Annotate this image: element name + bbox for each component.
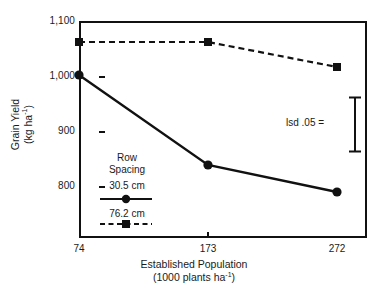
legend: Row Spacing 30.5 cm 76.2 cm	[85, 152, 169, 231]
lsd-annotation-label: lsd .05 =	[286, 117, 324, 128]
legend-title-line2: Spacing	[109, 164, 145, 175]
legend-item-76-2cm: 76.2 cm	[85, 208, 169, 231]
x-axis-title-line1: Established Population	[141, 258, 248, 270]
chart-figure: 1,100 1,000 900 800 Grain Yield (kg ha-1…	[0, 0, 388, 301]
x-axis-unit-prefix: (1000 plants ha	[153, 271, 225, 283]
legend-item-30-5cm: 30.5 cm	[85, 180, 169, 203]
x-axis-title-line2: (1000 plants ha-1)	[153, 271, 235, 283]
x-tick-label-272: 272	[307, 243, 367, 254]
legend-item-label-30-5cm: 30.5 cm	[85, 180, 169, 191]
legend-title: Row Spacing	[85, 152, 169, 175]
plot-canvas	[0, 0, 388, 301]
legend-key-slot-30-5cm	[85, 192, 169, 203]
legend-key-slot-76-2cm	[85, 220, 169, 231]
legend-item-label-76-2cm: 76.2 cm	[85, 208, 169, 219]
x-tick-label-173: 173	[178, 243, 238, 254]
x-tick-label-74: 74	[49, 243, 109, 254]
x-axis-unit-suffix: )	[232, 271, 236, 283]
legend-title-line1: Row	[117, 152, 137, 163]
lsd-error-bar	[349, 97, 361, 152]
x-axis-title: Established Population (1000 plants ha-1…	[0, 258, 388, 284]
